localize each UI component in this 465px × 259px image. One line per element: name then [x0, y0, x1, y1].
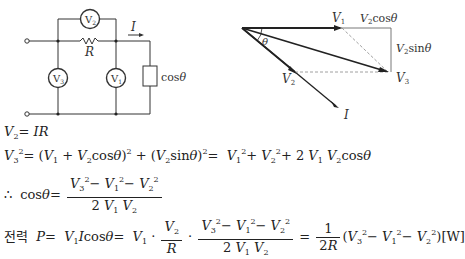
resistor-label: R	[84, 45, 94, 59]
equation-v3-squared: V32= (V1 + V2cosθ)2 + (V2sinθ)2= V12+ V2…	[4, 147, 371, 165]
voltmeter-v2: V2	[81, 10, 100, 29]
svg-text:V2: V2	[282, 72, 295, 87]
equation-cos-theta: ∴ cosθ= V32− V12− V22 2 V1 V2	[4, 172, 164, 219]
svg-text:θ: θ	[262, 36, 268, 47]
current-label: I	[130, 20, 136, 34]
svg-text:V3: V3	[396, 71, 409, 86]
circuit-diagram: V2 V3 V1 R I cosθ	[0, 0, 200, 125]
voltmeter-v1: V1	[107, 69, 126, 88]
voltmeter-v3: V3	[49, 69, 68, 88]
svg-text:I: I	[343, 108, 349, 122]
svg-text:V2sinθ: V2sinθ	[396, 42, 432, 56]
load-label: cosθ	[161, 71, 186, 84]
svg-text:V2cosθ: V2cosθ	[360, 12, 398, 26]
korean-power-label: 전력	[4, 229, 28, 244]
phasor-diagram: V1 V2cosθ V2sinθ V3 V2 I θ	[220, 0, 451, 125]
unit-watt: [W]	[441, 229, 465, 244]
equation-power: 전력 P= V1Icosθ= V1 · V2 R · V32− V12− V22…	[4, 214, 465, 259]
svg-text:V1: V1	[332, 11, 345, 26]
equation-v2: V2= IR	[4, 124, 48, 141]
